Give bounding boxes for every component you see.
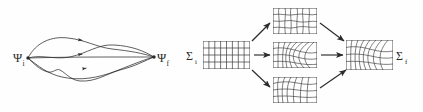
label-psi-initial: Ψ bbox=[13, 51, 23, 65]
wavefunction-path-panel bbox=[26, 38, 155, 81]
grid-initial bbox=[203, 41, 250, 69]
label-sigma-initial: Σ bbox=[186, 49, 193, 63]
grid-final bbox=[346, 40, 393, 70]
grid-branch-middle bbox=[273, 42, 317, 68]
path-start-node bbox=[26, 56, 29, 59]
path-curve-1 bbox=[28, 38, 154, 58]
label-psi-initial-sub: i bbox=[23, 59, 25, 68]
path-curve-5 bbox=[28, 57, 154, 79]
label-sigma-final: Σ bbox=[396, 49, 403, 63]
figure-svg: Ψ i Ψ f bbox=[0, 0, 423, 112]
label-psi-final: Ψ bbox=[157, 51, 167, 65]
label-psi-final-sub: f bbox=[167, 59, 170, 68]
arrow-initial-to-top bbox=[252, 23, 270, 41]
arrow-bottom-to-final bbox=[320, 70, 346, 88]
grid-branch-bottom bbox=[273, 77, 317, 103]
figure-canvas: Ψ i Ψ f bbox=[0, 0, 423, 112]
grid-branch-top bbox=[273, 8, 317, 34]
label-sigma-final-sub: f bbox=[405, 58, 408, 66]
path-curve-2 bbox=[28, 45, 154, 58]
arrow-top-to-final bbox=[320, 23, 344, 41]
path-end-node bbox=[152, 55, 155, 58]
label-sigma-initial-sub: i bbox=[195, 58, 197, 66]
arrow-initial-to-bottom bbox=[252, 70, 270, 87]
